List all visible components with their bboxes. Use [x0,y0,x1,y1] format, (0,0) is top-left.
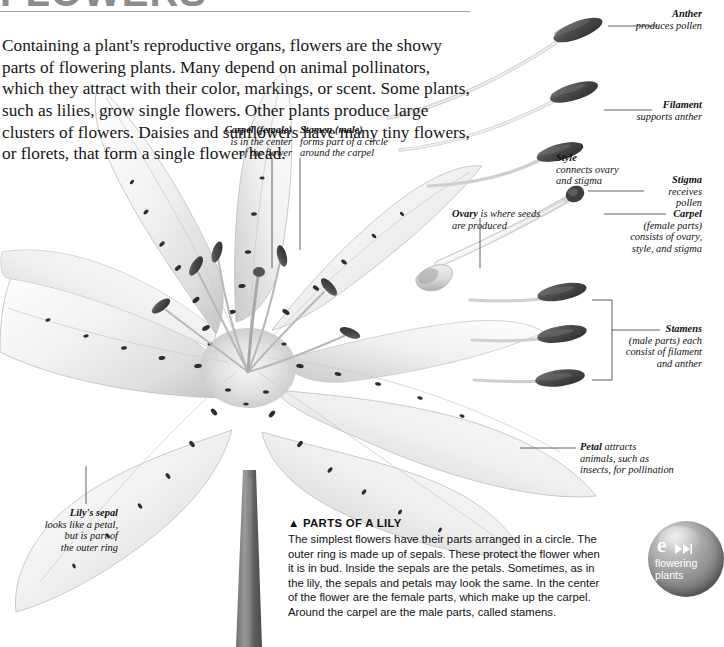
label-filament-line1: supports anther [636,111,702,122]
label-petal-term: Petal [580,441,602,452]
label-anther-term: Anther [672,8,702,19]
label-petal-line3: insects, for pollination [580,464,674,475]
title-divider [0,11,470,12]
label-ovary: Ovary is where seeds are produced [452,208,582,231]
badge-text: flowering plants [655,557,711,581]
label-stamens-line3: and anther [657,358,702,369]
label-stamen-male-line2: around the carpel [300,147,374,158]
label-stamen-male-term: Stamen (male) [300,124,363,135]
label-ovary-line2: are produced [452,220,507,231]
elink-badge[interactable]: e flowering plants [648,521,724,597]
label-carpel-parts-line3: style, and stigma [632,243,702,254]
label-ovary-term: Ovary [452,208,478,219]
label-sepal-line2: but is part of [65,530,118,541]
badge-letter-e: e [657,535,666,556]
page-title: FLOWERS [0,0,207,15]
label-filament: Filament supports anther [560,99,702,122]
label-petal-line1: attracts [605,441,637,452]
label-carpel-female-term: Carpel (female) [225,124,292,135]
label-style-term: Style [556,152,577,163]
badge-line1: flowering [655,557,697,569]
label-sepal-line1: looks like a petal, [45,519,118,530]
label-sepal-term: Lily's sepal [70,507,118,518]
label-stamen-male-line1: forms part of a circle [300,136,388,147]
label-carpel-parts-line2: consists of ovary, [630,231,702,242]
label-sepal-line3: the outer ring [61,542,118,553]
label-stamens: Stamens (male parts) each consist of fil… [576,323,702,369]
label-stigma-line1: receives [668,186,702,197]
label-stamens-line2: consist of filament [626,346,702,357]
label-stamens-term: Stamens [666,323,702,334]
caption-heading: ▲ PARTS OF A LILY [288,517,604,529]
label-carpel-female: Carpel (female) is in the center of the … [196,124,292,159]
fast-forward-icon [675,540,692,558]
badge-line2: plants [655,569,683,581]
label-anther-line1: produces pollen [636,20,702,31]
label-carpel-female-line2: of the flower [239,147,292,158]
label-style-line1: connects ovary [556,164,619,175]
label-filament-term: Filament [663,99,702,110]
label-stamens-line1: (male parts) each [629,335,702,346]
label-petal-line2: animals, such as [580,453,649,464]
label-carpel-parts-term: Carpel [673,208,702,219]
label-stigma: Stigma receives pollen [596,174,702,209]
label-stigma-line2: pollen [676,197,702,208]
label-petal: Petal attracts animals, such as insects,… [580,441,706,476]
label-stigma-term: Stigma [672,174,702,185]
label-carpel-parts: Carpel (female parts) consists of ovary,… [582,208,702,254]
label-sepal: Lily's sepal looks like a petal, but is … [0,507,118,553]
label-carpel-female-line1: is in the center [231,136,292,147]
caption-block: ▲ PARTS OF A LILY The simplest flowers h… [288,517,604,620]
caption-body: The simplest flowers have their parts ar… [288,532,604,620]
label-ovary-line1: is where seeds [481,208,541,219]
label-stamen-male: Stamen (male) forms part of a circle aro… [300,124,420,159]
label-anther: Anther produces pollen [560,8,702,31]
label-carpel-parts-line1: (female parts) [643,220,702,231]
